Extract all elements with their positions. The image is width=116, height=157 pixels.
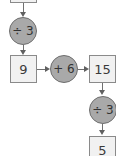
operation-label: ÷ 3 bbox=[12, 24, 34, 38]
value-box-15: 15 bbox=[89, 55, 116, 83]
arrow-head-icon bbox=[99, 130, 105, 135]
value-box-5: 5 bbox=[89, 136, 116, 156]
value-box-9: 9 bbox=[10, 55, 37, 83]
operation-label: ÷ 3 bbox=[92, 103, 114, 117]
value-label: 9 bbox=[19, 62, 27, 77]
arrow-head-icon bbox=[99, 90, 105, 95]
value-label: 5 bbox=[98, 143, 106, 157]
operation-divide-3: ÷ 3 bbox=[9, 17, 37, 45]
operation-label: + 6 bbox=[53, 62, 75, 76]
operation-divide-3-second: ÷ 3 bbox=[89, 96, 116, 124]
operation-add-6: + 6 bbox=[50, 55, 78, 83]
value-label: 15 bbox=[94, 62, 111, 77]
